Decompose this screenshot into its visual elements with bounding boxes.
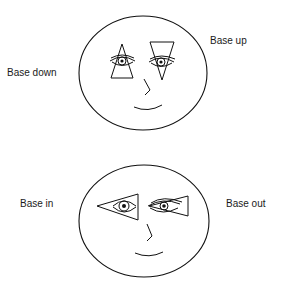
- label-base-up: Base up: [210, 35, 247, 46]
- face-top: [79, 16, 207, 130]
- label-base-down: Base down: [7, 67, 56, 78]
- prism-base-up-icon: [149, 42, 175, 80]
- face-outline: [79, 165, 209, 277]
- nose: [144, 79, 150, 95]
- face-outline: [79, 16, 207, 130]
- label-base-out: Base out: [226, 198, 266, 209]
- prism-base-down-icon: [110, 44, 135, 78]
- label-base-in: Base in: [20, 198, 53, 209]
- prism-base-in-icon: [97, 194, 138, 220]
- face-bottom: [79, 165, 209, 277]
- mouth: [135, 252, 163, 256]
- mouth: [134, 105, 162, 110]
- nose: [147, 224, 152, 241]
- prism-base-out-icon: [148, 196, 188, 216]
- prism-diagram: Base down Base up Base in Base out: [0, 0, 289, 290]
